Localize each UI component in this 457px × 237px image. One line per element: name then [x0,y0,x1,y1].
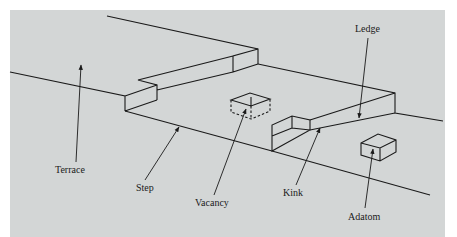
terrace-label: Terrace [55,164,85,175]
kink-arrow [296,128,320,185]
step-arrow [145,127,179,180]
kink-label: Kink [283,187,303,198]
ledge-label: Ledge [355,23,380,34]
step-label: Step [136,182,154,193]
vacancy-top [231,93,270,106]
ledge-back-line [258,64,443,121]
vacancy-arrow [214,109,246,195]
terrace-arrow [76,65,81,162]
adatom-label: Adatom [348,211,380,222]
step-left-face [10,72,157,111]
vacancy-label: Vacancy [195,197,229,208]
step-line [125,111,272,151]
kink-face [272,116,310,151]
adatom-cube [361,134,396,161]
ledge-front [310,93,395,130]
upper-terrace-edge [107,16,258,64]
ledge-arrow [359,38,368,118]
raised-block [138,49,258,100]
